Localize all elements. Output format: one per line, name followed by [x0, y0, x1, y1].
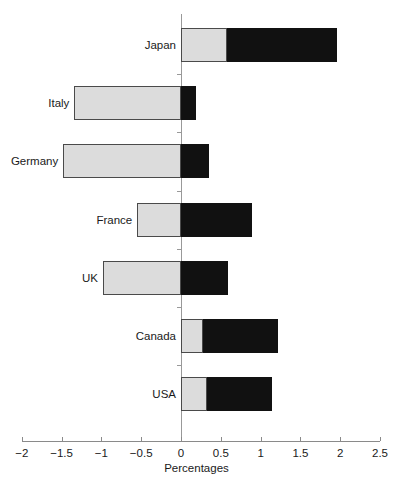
bar-segment-light [137, 203, 181, 237]
x-tick [300, 437, 301, 441]
bar-category-label: Italy [48, 86, 69, 120]
bar-segment-light [181, 319, 203, 353]
plot-area: JapanItalyGermanyFranceUKCanadaUSA [0, 0, 393, 440]
x-axis-title: Percentages [0, 462, 393, 474]
x-tick [380, 437, 381, 441]
bar-category-label: UK [82, 261, 98, 295]
x-tick-label: 0.5 [213, 447, 229, 459]
x-tick-label: 0 [178, 447, 184, 459]
category-tick [177, 365, 181, 366]
x-tick [181, 437, 182, 441]
bar-segment-dark [181, 144, 209, 178]
x-tick-label: −2 [15, 447, 28, 459]
x-axis-line [22, 441, 380, 442]
bar-category-label: Canada [136, 319, 176, 353]
x-tick [141, 437, 142, 441]
bar-segment-dark [207, 377, 271, 411]
bar-row: France [0, 203, 393, 237]
x-tick-label: −1.5 [50, 447, 73, 459]
bar-segment-dark [181, 203, 252, 237]
bar-row: Germany [0, 144, 393, 178]
category-tick [177, 74, 181, 75]
bar-row: Canada [0, 319, 393, 353]
x-tick [22, 437, 23, 441]
bar-row: Italy [0, 86, 393, 120]
x-tick-label: −1 [95, 447, 108, 459]
bar-chart: JapanItalyGermanyFranceUKCanadaUSA −2−1.… [0, 0, 393, 485]
bar-category-label: Japan [145, 28, 176, 62]
category-tick [177, 307, 181, 308]
bar-row: Japan [0, 28, 393, 62]
x-tick-label: 2 [337, 447, 343, 459]
bar-segment-dark [203, 319, 278, 353]
category-tick [177, 132, 181, 133]
bar-category-label: France [96, 203, 132, 237]
x-tick-label: 1 [257, 447, 263, 459]
x-tick [340, 437, 341, 441]
bar-segment-light [181, 377, 207, 411]
x-tick [101, 437, 102, 441]
bar-row: UK [0, 261, 393, 295]
x-tick [221, 437, 222, 441]
x-tick [261, 437, 262, 441]
x-tick-label: 1.5 [292, 447, 308, 459]
x-tick-label: 2.5 [372, 447, 388, 459]
bar-segment-light [181, 28, 227, 62]
x-tick [62, 437, 63, 441]
bar-segment-dark [181, 86, 196, 120]
bar-segment-light [103, 261, 181, 295]
category-tick [177, 249, 181, 250]
bar-segment-dark [227, 28, 337, 62]
x-tick-label: −0.5 [130, 447, 153, 459]
bar-segment-light [63, 144, 181, 178]
bar-row: USA [0, 377, 393, 411]
bar-segment-dark [181, 261, 228, 295]
bar-category-label: Germany [11, 144, 58, 178]
category-tick [177, 191, 181, 192]
bar-segment-light [74, 86, 181, 120]
bar-category-label: USA [152, 377, 176, 411]
